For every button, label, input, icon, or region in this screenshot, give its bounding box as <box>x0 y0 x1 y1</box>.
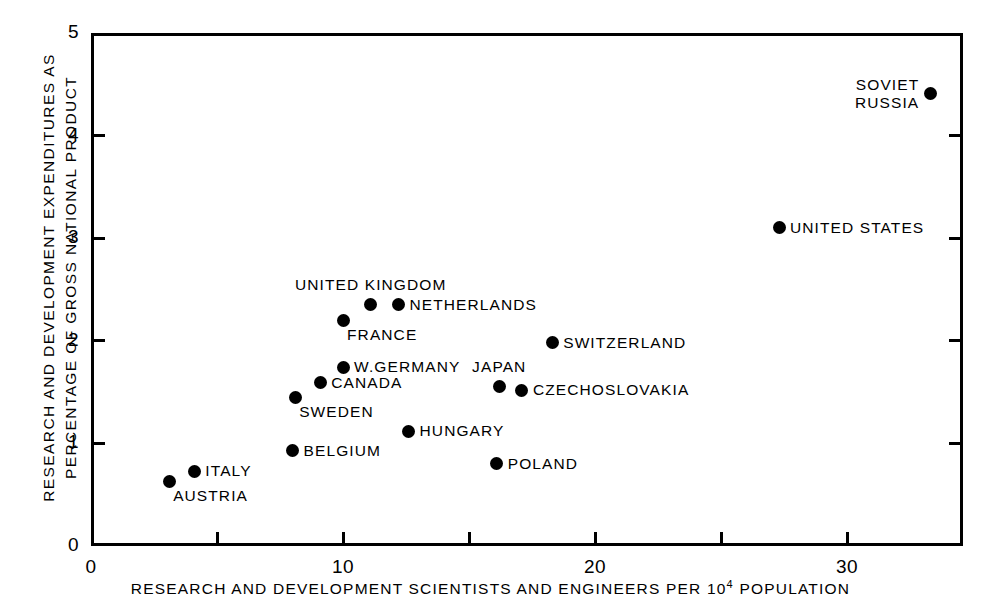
label-line: CZECHOSLOVAKIA <box>533 381 689 399</box>
y-axis-tick-4 <box>91 134 105 137</box>
x-axis-tick-20 <box>594 532 597 545</box>
label-line: JAPAN <box>472 358 526 376</box>
data-point-united-states[interactable] <box>773 221 786 234</box>
x-axis-title-exponent: 4 <box>727 578 734 590</box>
y-axis-title-line-2: PERCENTAGE OF GROSS NATIONAL PRODUCT <box>60 17 82 537</box>
y-axis-tick-label-3: 3 <box>45 226 79 248</box>
data-point-france[interactable] <box>337 314 350 327</box>
label-line: SOVIET <box>855 75 919 93</box>
x-axis-tick-label-0: 0 <box>69 556 113 578</box>
data-point-austria[interactable] <box>163 475 176 488</box>
data-point-label-soviet-russia: SOVIETRUSSIA <box>855 75 919 112</box>
x-axis-tick-10 <box>342 532 345 545</box>
label-line: HUNGARY <box>420 422 505 440</box>
x-axis-tick-label-30: 30 <box>825 556 869 578</box>
data-point-label-sweden: SWEDEN <box>299 403 374 421</box>
data-point-label-czechoslovakia: CZECHOSLOVAKIA <box>533 381 689 399</box>
data-point-italy[interactable] <box>188 465 201 478</box>
data-point-w-germany[interactable] <box>337 361 350 374</box>
data-point-label-belgium: BELGIUM <box>304 441 381 459</box>
data-point-switzerland[interactable] <box>546 336 559 349</box>
y-axis-tick-right-1 <box>949 442 963 445</box>
data-point-hungary[interactable] <box>402 425 415 438</box>
data-point-label-canada: CANADA <box>331 374 402 392</box>
data-point-label-united-states: UNITED STATES <box>790 219 924 237</box>
data-point-label-netherlands: NETHERLANDS <box>409 296 537 314</box>
y-axis-tick-right-3 <box>949 237 963 240</box>
x-axis-title-main: RESEARCH AND DEVELOPMENT SCIENTISTS AND … <box>131 580 727 597</box>
y-axis-tick-label-4: 4 <box>45 124 79 146</box>
label-line: FRANCE <box>347 326 417 344</box>
data-point-label-united-kingdom: UNITED KINGDOM <box>295 276 446 294</box>
y-axis-tick-right-2 <box>949 339 963 342</box>
data-point-label-france: FRANCE <box>347 326 417 344</box>
y-axis-tick-label-1: 1 <box>45 431 79 453</box>
scatter-chart: RESEARCH AND DEVELOPMENT EXPENDITURES AS… <box>0 0 981 609</box>
data-point-soviet-russia[interactable] <box>924 87 937 100</box>
label-line: CANADA <box>331 374 402 392</box>
label-line: RUSSIA <box>855 94 919 112</box>
x-axis-tick-label-20: 20 <box>573 556 617 578</box>
label-line: SWEDEN <box>299 403 374 421</box>
x-axis-tick-5 <box>216 532 219 545</box>
data-point-label-hungary: HUNGARY <box>420 422 505 440</box>
y-axis-tick-label-0: 0 <box>45 534 79 556</box>
label-line: BELGIUM <box>304 441 381 459</box>
label-line: NETHERLANDS <box>409 296 537 314</box>
label-line: UNITED STATES <box>790 219 924 237</box>
y-axis-tick-1 <box>91 442 105 445</box>
data-point-label-poland: POLAND <box>508 455 578 473</box>
x-axis-title-tail: POPULATION <box>734 580 850 597</box>
x-axis-tick-label-10: 10 <box>321 556 365 578</box>
label-line: AUSTRIA <box>173 487 248 505</box>
x-axis-tick-25 <box>720 532 723 545</box>
y-axis-tick-label-2: 2 <box>45 329 79 351</box>
data-point-label-switzerland: SWITZERLAND <box>563 334 686 352</box>
data-point-sweden[interactable] <box>289 391 302 404</box>
data-point-label-austria: AUSTRIA <box>173 487 248 505</box>
data-point-label-japan: JAPAN <box>472 358 526 376</box>
data-point-czechoslovakia[interactable] <box>515 384 528 397</box>
y-axis-title-line-1: RESEARCH AND DEVELOPMENT EXPENDITURES AS <box>38 17 60 537</box>
x-axis-tick-15 <box>468 532 471 545</box>
y-axis-tick-3 <box>91 237 105 240</box>
label-line: SWITZERLAND <box>563 334 686 352</box>
label-line: UNITED KINGDOM <box>295 276 446 294</box>
y-axis-tick-2 <box>91 339 105 342</box>
y-axis-tick-label-5: 5 <box>45 21 79 43</box>
data-point-label-italy: ITALY <box>205 462 251 480</box>
y-axis-tick-right-4 <box>949 134 963 137</box>
label-line: POLAND <box>508 455 578 473</box>
y-axis-title: RESEARCH AND DEVELOPMENT EXPENDITURES AS… <box>38 17 83 537</box>
x-axis-title: RESEARCH AND DEVELOPMENT SCIENTISTS AND … <box>0 578 981 598</box>
x-axis-tick-30 <box>846 532 849 545</box>
label-line: ITALY <box>205 462 251 480</box>
